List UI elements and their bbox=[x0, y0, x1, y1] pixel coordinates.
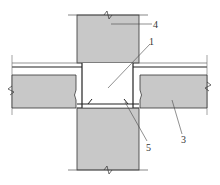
diagram-svg: 4 1 3 5 bbox=[0, 0, 220, 185]
label-1: 1 bbox=[149, 36, 154, 47]
joint-diagram: 4 1 3 5 bbox=[0, 0, 220, 185]
left-precast-slab bbox=[12, 75, 76, 108]
right-precast-slab bbox=[140, 75, 207, 108]
label-5: 5 bbox=[146, 142, 151, 153]
label-3: 3 bbox=[181, 134, 186, 145]
lower-column bbox=[77, 108, 139, 170]
upper-column bbox=[77, 15, 139, 63]
label-4: 4 bbox=[153, 19, 158, 30]
